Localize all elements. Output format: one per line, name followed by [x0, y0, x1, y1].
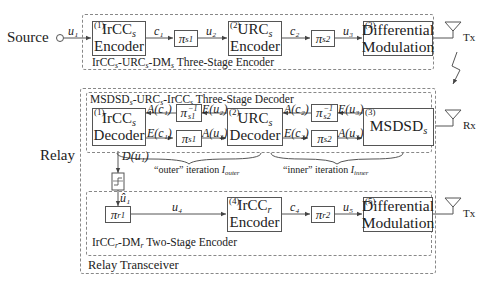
- block-subscript: s: [132, 28, 136, 39]
- signal-u5: u₅: [343, 200, 353, 215]
- block-number: (3): [365, 21, 376, 30]
- ircc-s-decoder-block: (1) IrCCs Decoder: [92, 108, 146, 146]
- signal-u4: u₄: [172, 200, 182, 215]
- pi-subscript: s2: [324, 134, 332, 144]
- pi-subscript: s2: [324, 113, 333, 121]
- block-title: MSDSD: [370, 117, 423, 134]
- signal-e-c1: E(c₁): [147, 126, 172, 141]
- ircc-r-encoder-block: (4) IrCCr Encoder: [227, 197, 282, 232]
- signal-c1: c₁: [154, 24, 164, 39]
- rx-antenna-label: Rx: [463, 119, 476, 131]
- interleaver-pi-s2-dec: πs2: [311, 130, 338, 147]
- signal-e-u3: E(u₃): [338, 102, 364, 117]
- signal-u3: u₃: [343, 24, 353, 39]
- block-number: (5): [365, 197, 376, 206]
- signal-e-u2: E(u₂): [202, 102, 228, 117]
- block-title: IrCC: [238, 197, 268, 213]
- relay-tx-antenna-label: Tx: [463, 207, 475, 219]
- inner-iteration-label: “inner” iteration Iinner: [283, 164, 368, 176]
- hard-decision-slicer-icon: [112, 173, 124, 190]
- signal-u1: u₁: [68, 24, 78, 39]
- block-subtitle: Encoder: [230, 39, 280, 55]
- ircc-s-encoder-block: (1) IrCCs Encoder: [92, 21, 146, 56]
- relay-tx-antenna-icon: [445, 198, 461, 208]
- signal-u1-hat: û₁: [120, 191, 130, 206]
- msdsd-s-block: (3) MSDSDs: [363, 108, 434, 146]
- differential-modulation-s-block: (3) Differential Modulation: [363, 21, 433, 56]
- interleaver-pi-r1: πr1: [105, 206, 131, 223]
- outer-iteration-text: “outer” iteration: [154, 164, 222, 175]
- signal-a-u2: A(u₂): [202, 126, 228, 141]
- block-number: (1): [94, 108, 105, 117]
- block-number: (2): [230, 21, 241, 30]
- signal-a-c2: A(c₂): [284, 102, 309, 117]
- pi-subscript: s1: [185, 34, 193, 44]
- pi-subscript: r1: [117, 210, 125, 220]
- block-subtitle: Encoder: [230, 215, 280, 231]
- relay-encoder-title: IrCCr-DMr Two-Stage Encoder: [92, 236, 237, 250]
- signal-a-u3: A(u₃): [338, 126, 364, 141]
- pi-subscript: s1: [188, 113, 197, 121]
- block-number: (3): [365, 108, 376, 117]
- block-subtitle: Decoder: [94, 128, 145, 144]
- block-title: IrCC: [102, 110, 132, 126]
- interleaver-pi-r2: πr2: [311, 206, 335, 223]
- relay-label: Relay: [40, 147, 75, 164]
- pi-subscript: s2: [322, 34, 330, 44]
- source-encoder-title: IrCCs-URCs-DMs Three-Stage Encoder: [92, 56, 274, 70]
- tx-antenna-icon: [445, 22, 461, 32]
- block-subtitle: Decoder: [230, 128, 281, 144]
- outer-iteration-label: “outer” iteration Iouter: [154, 164, 239, 176]
- signal-d-u1: D(u₁): [122, 149, 149, 164]
- deinterleaver-pi-s1-inv: π−1s1: [176, 104, 202, 122]
- block-subtitle: Modulation: [362, 39, 434, 55]
- urc-s-decoder-block: (2) URCs Decoder: [227, 108, 283, 146]
- block-title: URC: [238, 110, 269, 126]
- block-number: (2): [229, 108, 240, 117]
- block-subtitle: Modulation: [362, 215, 434, 231]
- block-subscript: s: [268, 116, 272, 127]
- signal-a-c1: A(c₁): [147, 102, 172, 117]
- differential-modulation-r-block: (5) Differential Modulation: [363, 197, 433, 232]
- block-subscript: r: [268, 204, 272, 215]
- tx-antenna-label: Tx: [463, 31, 475, 43]
- deinterleaver-pi-s2-inv: π−1s2: [311, 104, 338, 122]
- block-subtitle: Encoder: [94, 39, 144, 55]
- pi-subscript: s1: [188, 134, 196, 144]
- block-title: IrCC: [102, 21, 132, 37]
- block-number: (4): [229, 197, 240, 206]
- relay-transceiver-label: Relay Transceiver: [88, 258, 179, 273]
- pi-symbol: π: [181, 105, 188, 121]
- pi-symbol: π: [316, 105, 323, 121]
- source-label: Source: [7, 29, 49, 46]
- signal-c2: c₂: [290, 24, 300, 39]
- block-number: (1): [94, 21, 105, 30]
- block-subscript: s: [268, 28, 272, 39]
- signal-u2: u₂: [206, 24, 216, 39]
- inner-iteration-subscript: inner: [354, 169, 368, 176]
- pi-subscript: r2: [322, 210, 330, 220]
- urc-s-encoder-block: (2) URCs Encoder: [228, 21, 282, 56]
- inner-iteration-text: “inner” iteration: [283, 164, 351, 175]
- block-subscript: s: [423, 125, 427, 136]
- outer-iteration-subscript: outer: [225, 169, 239, 176]
- signal-e-c2: E(c₂): [284, 126, 309, 141]
- interleaver-pi-s2: πs2: [311, 30, 335, 47]
- rx-antenna-icon: [445, 110, 461, 120]
- block-title: URC: [238, 21, 269, 37]
- block-subscript: s: [132, 116, 136, 127]
- interleaver-pi-s1: πs1: [174, 30, 198, 47]
- signal-c4: c₄: [290, 200, 300, 215]
- interleaver-pi-s1-dec: πs1: [176, 130, 202, 147]
